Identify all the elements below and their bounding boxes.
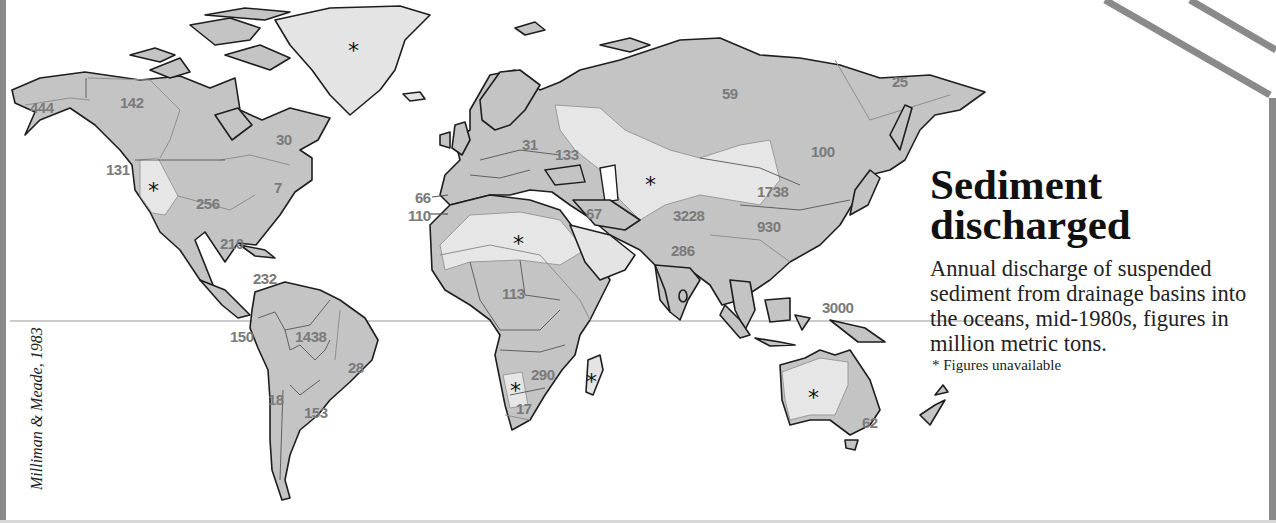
north-america — [12, 6, 430, 318]
label-caribbean: 232 — [253, 270, 277, 287]
label-central-africa: 113 — [502, 285, 525, 302]
source-credit: Milliman & Meade, 1983 — [28, 327, 46, 490]
label-sahara: * — [513, 231, 524, 256]
map-description: Annual discharge of suspended sediment f… — [930, 256, 1270, 356]
label-western-sa: 150 — [230, 328, 254, 345]
label-siberia: 59 — [722, 85, 738, 102]
label-iberia: 66 — [415, 189, 431, 206]
label-eastern-canada: 30 — [276, 131, 292, 148]
label-amur: 100 — [811, 143, 835, 160]
label-south-africa: 17 — [516, 400, 532, 417]
label-northern-canada: 142 — [120, 94, 144, 111]
label-central-asia: * — [645, 172, 656, 197]
map-title: Sediment discharged — [930, 165, 1131, 245]
label-madagascar: * — [586, 369, 597, 394]
title-line-2: discharged — [930, 205, 1131, 245]
label-huang-he: 1738 — [757, 183, 789, 200]
label-yangtze: 930 — [757, 218, 781, 235]
label-nw-africa: 110 — [408, 207, 431, 224]
label-amazon: 1438 — [295, 328, 327, 345]
corner-stripes — [1105, 0, 1276, 95]
label-black-sea: 133 — [555, 146, 579, 163]
label-zambezi: 290 — [531, 366, 555, 383]
label-us-east: 7 — [274, 179, 282, 196]
australia — [780, 350, 880, 450]
label-mississippi: 256 — [196, 195, 220, 212]
label-northern-europe: 31 — [522, 136, 538, 153]
label-la-plata: 153 — [304, 404, 328, 421]
label-alaska: 444 — [30, 99, 55, 116]
label-australia-interior: * — [808, 385, 819, 410]
label-india: 286 — [671, 242, 695, 259]
label-greenland: * — [348, 38, 359, 63]
label-middle-east: 67 — [586, 205, 602, 222]
label-indus-ganges: 3228 — [673, 207, 705, 224]
label-gulf: 210 — [220, 235, 244, 252]
label-great-basin: * — [148, 178, 159, 203]
title-line-1: Sediment — [930, 165, 1131, 205]
label-pacific-northwest: 131 — [106, 161, 130, 178]
label-chile: 18 — [268, 391, 284, 408]
footnote-unavailable: * Figures unavailable — [932, 357, 1061, 374]
label-ne-siberia: 25 — [892, 73, 908, 90]
label-eastern-brazil: 28 — [348, 359, 364, 376]
label-indonesia: 3000 — [822, 299, 854, 316]
label-eastern-australia: 62 — [862, 414, 878, 431]
